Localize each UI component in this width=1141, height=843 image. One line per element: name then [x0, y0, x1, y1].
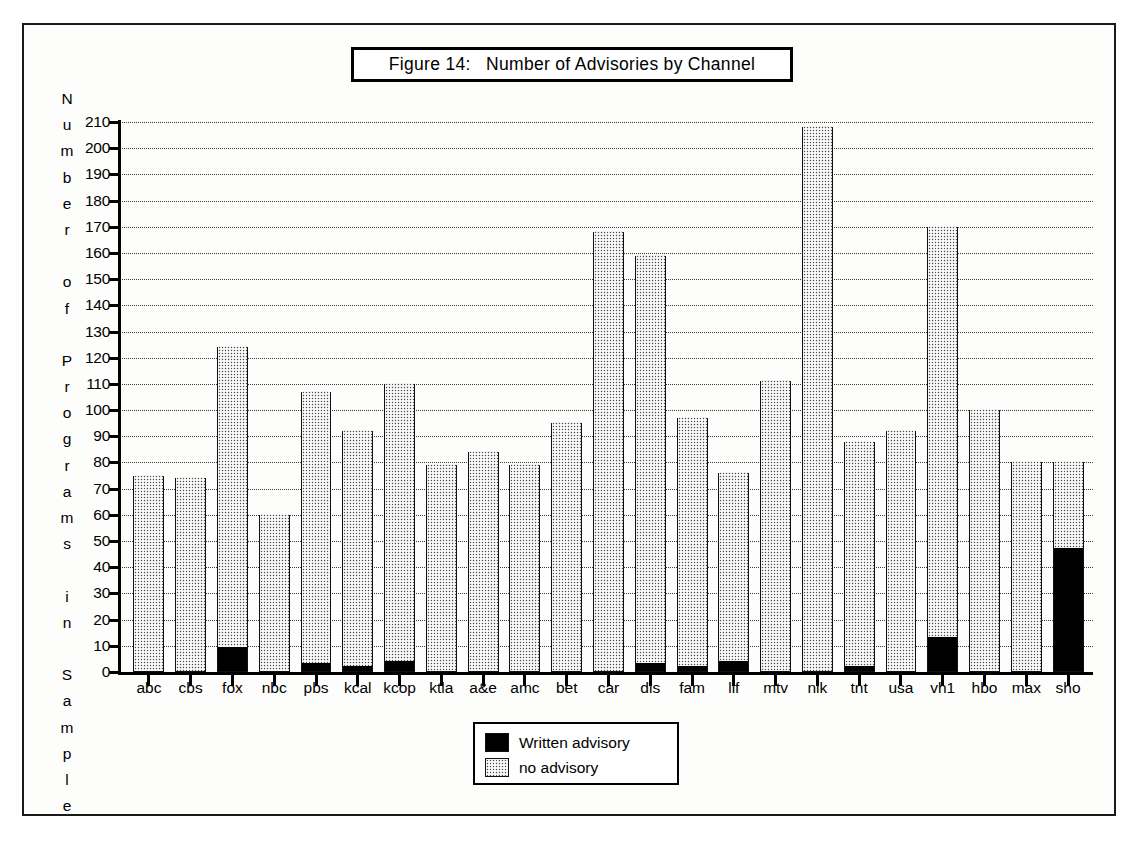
legend: Written advisoryno advisory	[473, 722, 679, 785]
bar-segment-written-advisory	[218, 647, 247, 671]
bar-mtv	[760, 381, 791, 672]
x-axis-tick-label-fam: fam	[671, 678, 713, 698]
bar-nik	[802, 127, 833, 672]
x-axis-tick-label-amc: amc	[504, 678, 546, 698]
y-axis-tick-label: 200	[70, 140, 110, 156]
bar-tnt	[844, 442, 875, 672]
y-axis-tick-label: 100	[70, 402, 110, 418]
bar-segment-no-advisory	[845, 441, 874, 666]
plot-canvas	[118, 110, 1093, 672]
y-axis-tick-label: 140	[70, 297, 110, 313]
gridline	[120, 174, 1093, 175]
bar-segment-no-advisory	[719, 472, 748, 661]
page-title: Figure 14: Number of Advisories by Chann…	[389, 54, 755, 75]
bar-segment-no-advisory	[1012, 461, 1041, 671]
bar-bet	[551, 423, 582, 672]
y-axis-label-char: e	[58, 793, 76, 819]
y-axis-tick-label: 130	[70, 324, 110, 340]
y-axis-label-char: a	[58, 688, 76, 714]
x-axis-line	[118, 672, 1093, 675]
y-axis-tick-label: 60	[70, 507, 110, 523]
bar-segment-written-advisory	[928, 637, 957, 671]
x-axis-tick-label-nbc: nbc	[253, 678, 295, 698]
y-axis-label-char: l	[58, 767, 76, 793]
y-axis-tick-labels: 2102001901801701601501401301201101009080…	[62, 110, 110, 672]
y-axis-label-char: m	[58, 715, 76, 741]
gridline	[120, 122, 1093, 123]
bar-segment-no-advisory	[176, 477, 205, 671]
y-axis-tick-label: 110	[70, 376, 110, 392]
bar-segment-no-advisory	[510, 464, 539, 671]
bar-abc	[133, 476, 164, 672]
y-axis-tick-label: 90	[70, 428, 110, 444]
x-axis-tick-label-dis: dis	[629, 678, 671, 698]
bar-dis	[635, 256, 666, 672]
bar-kcal	[342, 431, 373, 672]
bar-segment-no-advisory	[803, 126, 832, 671]
y-axis-tick-label: 10	[70, 638, 110, 654]
x-axis-tick-label-kcop: kcop	[379, 678, 421, 698]
bar-segment-no-advisory	[636, 255, 665, 664]
y-axis-tick-label: 160	[70, 245, 110, 261]
legend-item: no advisory	[485, 755, 677, 780]
bar-cbs	[175, 478, 206, 672]
bar-segment-no-advisory	[134, 475, 163, 671]
x-axis-tick-label-hbo: hbo	[964, 678, 1006, 698]
y-axis-tick-label: 70	[70, 481, 110, 497]
bar-segment-no-advisory	[218, 346, 247, 647]
bar-pbs	[301, 392, 332, 672]
y-axis-tick-label: 80	[70, 454, 110, 470]
y-axis-tick-label: 0	[70, 664, 110, 680]
x-axis-tick-label-sho: sho	[1047, 678, 1089, 698]
legend-label: no advisory	[519, 759, 598, 777]
bar-segment-no-advisory	[427, 464, 456, 671]
bar-a&e	[468, 452, 499, 672]
y-axis-tick-label: 190	[70, 166, 110, 182]
bar-ktla	[426, 465, 457, 672]
x-axis-tick-label-car: car	[588, 678, 630, 698]
plot-area	[118, 110, 1093, 672]
x-axis-tick-labels: abccbsfoxnbcpbskcalkcopktlaa&eamcbetcard…	[118, 678, 1098, 702]
x-axis-tick-label-lif: lif	[713, 678, 755, 698]
bar-segment-written-advisory	[302, 663, 331, 671]
y-axis-line	[118, 120, 121, 672]
bar-segment-no-advisory	[887, 430, 916, 671]
y-axis-tick-label: 180	[70, 193, 110, 209]
bar-segment-no-advisory	[1054, 461, 1083, 547]
bar-segment-no-advisory	[302, 391, 331, 663]
bar-segment-no-advisory	[385, 383, 414, 661]
y-axis-tick-label: 30	[70, 585, 110, 601]
bar-segment-written-advisory	[636, 663, 665, 671]
x-axis-tick-label-ktla: ktla	[420, 678, 462, 698]
bar-segment-written-advisory	[719, 661, 748, 671]
legend-swatch-black	[485, 733, 509, 752]
bar-car	[593, 232, 624, 672]
bar-fam	[677, 418, 708, 672]
legend-label: Written advisory	[519, 734, 630, 752]
y-axis-label-char: N	[58, 86, 76, 112]
y-axis-tick-label: 150	[70, 271, 110, 287]
x-axis-tick-label-nik: nik	[797, 678, 839, 698]
bar-hbo	[969, 410, 1000, 672]
bar-fox	[217, 347, 248, 672]
gridline	[120, 148, 1093, 149]
bar-segment-written-advisory	[343, 666, 372, 671]
bar-segment-no-advisory	[552, 422, 581, 671]
x-axis-tick-label-a&e: a&e	[462, 678, 504, 698]
bar-segment-written-advisory	[385, 661, 414, 671]
bar-lif	[718, 473, 749, 672]
x-axis-tick-label-vh1: vh1	[922, 678, 964, 698]
bar-segment-written-advisory	[678, 666, 707, 671]
bar-segment-no-advisory	[260, 514, 289, 671]
y-axis-tick-label: 120	[70, 350, 110, 366]
bar-segment-no-advisory	[678, 417, 707, 666]
x-axis-tick-label-kcal: kcal	[337, 678, 379, 698]
gridline	[120, 201, 1093, 202]
y-axis-label-char: p	[58, 741, 76, 767]
bar-segment-written-advisory	[1054, 548, 1083, 671]
bar-nbc	[259, 515, 290, 672]
x-axis-tick-label-pbs: pbs	[295, 678, 337, 698]
x-axis-tick-label-cbs: cbs	[170, 678, 212, 698]
figure-title-box: Figure 14: Number of Advisories by Chann…	[351, 47, 793, 82]
bar-segment-no-advisory	[761, 380, 790, 671]
